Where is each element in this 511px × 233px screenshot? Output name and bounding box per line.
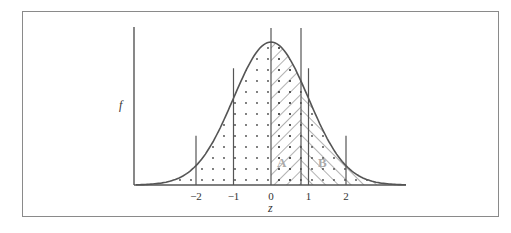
tick-label: −1 [228,190,240,202]
normal-distribution-diagram: −2−1012 f z A B [0,0,511,233]
tick-label: 1 [306,190,312,202]
tick-label: 2 [343,190,349,202]
x-axis-label: z [267,201,273,215]
region-label-a: A [277,155,287,170]
y-axis-label: f [119,98,124,112]
region-label-b: B [318,155,327,170]
tick-label: −2 [190,190,202,202]
